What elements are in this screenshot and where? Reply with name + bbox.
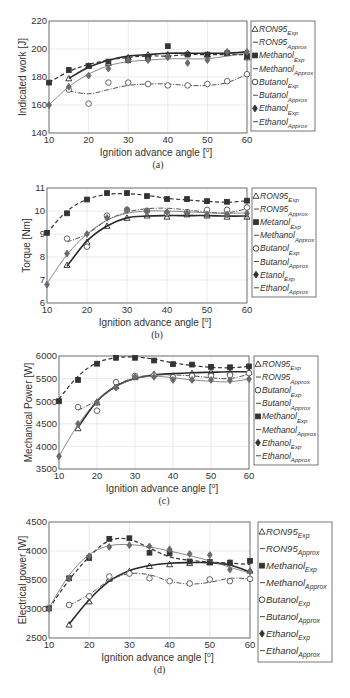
x-axis-label: Ignition advance angle [o]: [99, 316, 212, 328]
circle-swatch-icon: [259, 597, 265, 603]
figure-panel: 102030405060140160180200220Ignition adva…: [0, 0, 350, 698]
chart-a: 102030405060140160180200220Ignition adva…: [17, 15, 315, 171]
legend: RON95ExpRON95ApproxMethanolExpMethanolAp…: [251, 21, 315, 131]
circle-marker: [86, 101, 92, 107]
x-tick-label: 60: [242, 134, 253, 145]
y-tick-label: 3000: [26, 603, 47, 614]
circle-marker: [125, 80, 131, 86]
y-tick-label: 5500: [36, 373, 57, 384]
y-tick-label: 220: [31, 15, 47, 26]
chart-c: 102030405060350040004500500055006000Igni…: [23, 350, 318, 507]
circle-marker: [86, 593, 92, 599]
chart-b: 10203040506067891011Ignition advance ang…: [21, 182, 316, 341]
x-tick-label: 40: [164, 639, 175, 650]
y-axis-label: Mechanical Power [W]: [23, 363, 34, 463]
circle-marker: [64, 236, 70, 242]
circle-marker: [106, 80, 112, 86]
square-marker: [85, 197, 90, 202]
chart-caption: (b): [151, 329, 163, 341]
circle-marker: [94, 408, 100, 414]
y-tick-label: 6000: [36, 350, 57, 361]
square-marker: [114, 355, 119, 360]
y-tick-label: 5000: [36, 396, 57, 407]
x-axis-label: Ignition advance angle [o]: [100, 146, 213, 158]
square-marker: [106, 59, 111, 64]
square-marker: [185, 52, 190, 57]
square-marker: [57, 399, 62, 404]
circle-swatch-icon: [252, 79, 258, 85]
square-marker: [107, 536, 112, 541]
square-marker: [247, 364, 252, 369]
circle-marker: [227, 578, 233, 584]
square-marker: [47, 80, 52, 85]
square-marker: [152, 358, 157, 363]
circle-marker: [244, 71, 250, 77]
x-tick-label: 40: [168, 470, 179, 481]
y-tick-label: 4000: [36, 441, 57, 452]
circle-marker: [165, 83, 171, 89]
circle-marker: [167, 578, 173, 584]
y-tick-label: 4000: [26, 545, 47, 556]
chart-d: 10203040506025003000350040004500Ignition…: [17, 516, 332, 676]
y-tick-label: 6: [40, 297, 45, 308]
y-tick-label: 200: [31, 43, 47, 54]
x-tick-label: 60: [242, 304, 253, 315]
plot-area: [47, 188, 247, 303]
square-marker: [228, 365, 233, 370]
chart-caption: (a): [152, 159, 163, 171]
x-tick-label: 60: [244, 470, 255, 481]
square-marker: [228, 560, 233, 565]
square-marker: [209, 364, 214, 369]
x-tick-label: 20: [92, 470, 103, 481]
circle-marker: [207, 577, 213, 583]
y-axis-label: Indicated work [J]: [17, 38, 28, 116]
square-marker: [171, 362, 176, 367]
x-tick-label: 20: [84, 639, 95, 650]
square-swatch-icon: [254, 220, 259, 225]
square-marker: [66, 68, 71, 73]
legend: RON95ExpRON95ApproxMetanolExpMethanolApp…: [252, 188, 316, 297]
circle-marker: [147, 575, 153, 581]
y-tick-label: 160: [31, 99, 47, 110]
y-tick-label: 2500: [26, 632, 47, 643]
x-tick-label: 50: [202, 304, 213, 315]
y-tick-label: 8: [40, 251, 45, 262]
y-axis-label: Torque [Nm]: [21, 218, 32, 273]
y-tick-label: 4500: [36, 418, 57, 429]
square-marker: [127, 536, 132, 541]
square-marker: [86, 63, 91, 68]
circle-marker: [224, 78, 230, 84]
square-marker: [165, 44, 170, 49]
square-swatch-icon: [260, 563, 265, 568]
y-tick-label: 11: [35, 182, 45, 193]
square-marker: [105, 191, 110, 196]
circle-marker: [185, 83, 191, 89]
chart-caption: (c): [158, 495, 169, 507]
square-marker: [145, 194, 150, 199]
x-tick-label: 30: [130, 470, 141, 481]
square-marker: [187, 559, 192, 564]
square-marker: [125, 191, 130, 196]
square-marker: [133, 355, 138, 360]
square-marker: [185, 197, 190, 202]
y-tick-label: 10: [34, 205, 45, 216]
x-tick-label: 30: [122, 304, 133, 315]
square-marker: [76, 378, 81, 383]
y-axis-label: Electrical power [W]: [17, 536, 28, 625]
circle-marker: [187, 581, 193, 587]
y-tick-label: 3500: [26, 574, 47, 585]
circle-swatch-icon: [255, 387, 261, 393]
circle-swatch-icon: [253, 246, 259, 252]
square-marker: [165, 197, 170, 202]
x-tick-label: 20: [82, 304, 93, 315]
circle-marker: [205, 81, 211, 87]
x-axis-label: Ignition advance angle [o]: [101, 651, 214, 663]
square-marker: [190, 362, 195, 367]
y-tick-label: 4500: [26, 516, 47, 527]
circle-marker: [127, 571, 133, 577]
x-axis-label: Ignition advance angle [o]: [106, 482, 219, 494]
x-tick-label: 50: [206, 470, 217, 481]
x-tick-label: 50: [205, 639, 216, 650]
legend: RON95ExpRON95ApproxMethanolExpMethanolAp…: [258, 522, 332, 662]
circle-marker: [75, 404, 81, 410]
